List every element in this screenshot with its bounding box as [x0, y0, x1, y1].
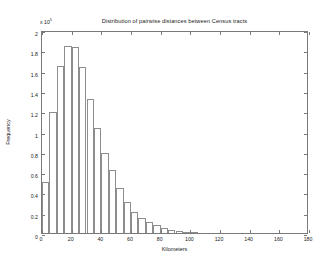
histogram-bar — [168, 230, 175, 233]
y-tick-mark-right — [304, 32, 307, 33]
y-tick-mark — [42, 113, 45, 114]
y-tick-mark — [42, 194, 45, 195]
y-tick-mark-right — [304, 215, 307, 216]
x-tick-label: 20 — [68, 236, 74, 242]
x-tick-label: 120 — [215, 236, 224, 242]
x-tick-mark-top — [131, 32, 132, 35]
y-tick-label-text: 1.4 — [31, 92, 38, 98]
histogram-bar — [109, 170, 116, 233]
x-tick-mark-top — [279, 32, 280, 35]
histogram-bar — [42, 182, 49, 233]
y-tick-label-text: 1.6 — [31, 72, 38, 78]
histogram-bar — [64, 46, 71, 233]
y-tick-mark-right — [304, 154, 307, 155]
x-tick-label: 180 — [304, 236, 313, 242]
y-tick-label-text: 0.2 — [31, 214, 38, 220]
y-tick-label-text: 1 — [35, 133, 38, 139]
bars-layer — [42, 32, 307, 233]
y-tick-mark — [42, 174, 45, 175]
y-axis-exponent-power: 5 — [50, 18, 52, 22]
x-tick-mark-top — [72, 32, 73, 35]
histogram-bar — [79, 67, 86, 233]
histogram-bar — [131, 212, 138, 233]
y-tick-mark — [42, 32, 45, 33]
x-tick-mark — [279, 230, 280, 233]
histogram-bar — [57, 66, 64, 233]
histogram-bar — [49, 112, 56, 233]
x-tick-mark — [131, 230, 132, 233]
histogram-bar — [94, 128, 101, 233]
histogram-bar — [138, 218, 145, 233]
x-tick-mark-top — [101, 32, 102, 35]
y-tick-mark — [42, 52, 45, 53]
histogram-bar — [116, 188, 123, 233]
histogram-bar — [190, 232, 197, 233]
y-tick-mark — [42, 134, 45, 135]
y-tick-label-text: 2 — [35, 31, 38, 37]
x-tick-label: 140 — [244, 236, 253, 242]
x-tick-label: 160 — [274, 236, 283, 242]
x-tick-mark — [72, 230, 73, 233]
y-tick-label-text: 0.4 — [31, 193, 38, 199]
x-tick-mark — [101, 230, 102, 233]
x-tick-label: 60 — [127, 236, 133, 242]
x-tick-label: 0 — [40, 236, 43, 242]
x-tick-mark — [309, 230, 310, 233]
histogram-bar — [72, 47, 79, 233]
y-tick-mark — [42, 154, 45, 155]
x-tick-mark — [250, 230, 251, 233]
y-tick-mark-right — [304, 52, 307, 53]
x-tick-mark-top — [190, 32, 191, 35]
x-tick-mark-top — [250, 32, 251, 35]
x-tick-mark — [220, 230, 221, 233]
plot-area — [41, 31, 308, 234]
y-tick-label-text: 0 — [35, 234, 38, 240]
histogram-bar — [124, 202, 131, 233]
y-tick-label-text: 1.2 — [31, 112, 38, 118]
x-tick-mark — [161, 230, 162, 233]
y-tick-mark-right — [304, 113, 307, 114]
y-tick-mark-right — [304, 174, 307, 175]
y-tick-mark-right — [304, 134, 307, 135]
figure-canvas: Distribution of pairwise distances betwe… — [0, 0, 325, 276]
y-tick-mark — [42, 73, 45, 74]
histogram-bar — [161, 228, 168, 233]
y-axis-exponent-base: x 10 — [40, 19, 50, 25]
y-tick-mark-right — [304, 194, 307, 195]
y-tick-mark — [42, 215, 45, 216]
x-tick-mark-top — [309, 32, 310, 35]
x-axis-label: Kilometers — [41, 246, 308, 252]
y-axis-label: Frequency — [5, 119, 11, 144]
y-tick-label-text: 0.8 — [31, 153, 38, 159]
x-tick-label: 40 — [97, 236, 103, 242]
x-tick-mark — [42, 230, 43, 233]
histogram-bar — [101, 153, 108, 233]
x-tick-mark-top — [161, 32, 162, 35]
y-axis-exponent: x 105 — [40, 18, 52, 25]
x-tick-mark-top — [220, 32, 221, 35]
x-tick-label: 80 — [157, 236, 163, 242]
y-tick-mark-right — [304, 73, 307, 74]
y-tick-mark-right — [304, 93, 307, 94]
histogram-bar — [176, 231, 183, 233]
histogram-bar — [153, 225, 160, 233]
y-tick-label-text: 0.6 — [31, 173, 38, 179]
histogram-bar — [183, 232, 190, 233]
histogram-bar — [87, 99, 94, 233]
histogram-bar — [146, 222, 153, 233]
x-tick-label: 100 — [185, 236, 194, 242]
chart-title: Distribution of pairwise distances betwe… — [41, 18, 308, 24]
y-tick-mark — [42, 93, 45, 94]
x-tick-mark — [190, 230, 191, 233]
y-tick-label-text: 1.8 — [31, 51, 38, 57]
